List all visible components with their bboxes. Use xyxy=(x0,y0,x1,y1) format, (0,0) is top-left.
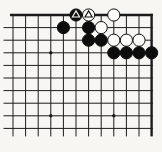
black-stone xyxy=(83,34,95,46)
white-stone xyxy=(108,9,120,21)
black-stone xyxy=(95,34,107,46)
white-stone xyxy=(108,34,120,46)
black-stone xyxy=(133,47,145,59)
star-point xyxy=(112,114,115,117)
black-stone xyxy=(146,47,158,59)
star-point xyxy=(49,51,52,54)
go-board-svg xyxy=(0,0,162,152)
black-stone xyxy=(120,47,132,59)
paper-background xyxy=(0,0,162,152)
white-stone xyxy=(120,34,132,46)
star-point xyxy=(49,114,52,117)
white-stone xyxy=(133,34,145,46)
white-stone xyxy=(95,22,107,34)
black-stone xyxy=(83,22,95,34)
black-stone xyxy=(108,47,120,59)
black-stone xyxy=(57,22,69,34)
go-board-diagram xyxy=(0,0,162,152)
